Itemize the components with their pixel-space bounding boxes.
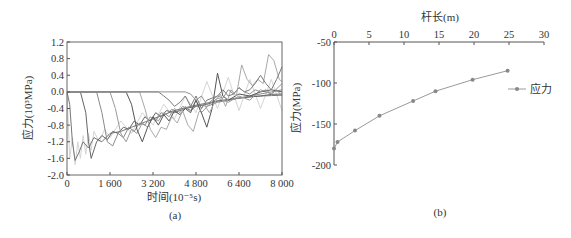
data-point-marker (506, 69, 510, 73)
chart-b-stress-length: 051015202530 -50-100-150-200 杆长(m) 应力(MP… (289, 10, 552, 219)
data-point-marker (378, 114, 382, 118)
y-tick-label: -200 (312, 160, 331, 171)
x-tick-label: 15 (434, 29, 445, 40)
chart-a-x-axis-title: 时间(10⁻⁵s) (147, 191, 202, 204)
data-point-marker (411, 99, 415, 103)
y-tick-label: -2.0 (47, 170, 64, 181)
legend-marker-icon (515, 87, 519, 91)
x-tick-label: 1 600 (98, 178, 122, 189)
chart-a-y-axis-title: 应力(10³MPa) (21, 75, 35, 140)
chart-b-x-axis-title: 杆长(m) (421, 10, 459, 24)
chart-a-stress-time: 1.20.80.40.0-0.4-0.8-1.2-1.6-2.0 01 6003… (21, 37, 294, 223)
y-tick-label: 0.0 (51, 86, 64, 97)
chart-b-legend-label: 应力 (530, 82, 552, 95)
x-tick-label: 25 (504, 29, 515, 40)
data-point-marker (353, 129, 357, 133)
chart-b-x-axis: 051015202530 (331, 29, 549, 45)
chart-b-y-axis-title: 应力(MPa) (289, 83, 303, 133)
y-tick-label: -1.6 (47, 153, 64, 164)
series-line (67, 77, 282, 164)
y-tick-label: -1.2 (47, 136, 64, 147)
y-tick-label: 0.8 (51, 53, 64, 64)
y-tick-label: 0.4 (51, 70, 65, 81)
series-line (67, 73, 282, 142)
x-tick-label: 3 200 (141, 178, 165, 189)
x-tick-label: 0 (331, 29, 336, 40)
x-tick-label: 4 800 (184, 178, 208, 189)
x-tick-label: 8 000 (270, 178, 294, 189)
data-point-marker (332, 147, 336, 151)
x-tick-label: 30 (539, 29, 550, 40)
x-tick-label: 6 400 (227, 178, 251, 189)
chart-b-panel-label: (b) (434, 206, 447, 219)
chart-a-curves (67, 55, 282, 165)
y-tick-label: -0.8 (47, 120, 64, 131)
series-line (334, 71, 508, 149)
x-tick-label: 5 (366, 29, 371, 40)
data-point-marker (434, 89, 438, 93)
data-point-marker (471, 78, 475, 82)
y-tick-label: 1.2 (51, 37, 64, 48)
figure: 1.20.80.40.0-0.4-0.8-1.2-1.6-2.0 01 6003… (0, 0, 571, 238)
chart-a-panel-label: (a) (169, 209, 182, 222)
chart-b-series (332, 69, 510, 151)
y-tick-label: -0.4 (47, 103, 64, 114)
y-tick-label: -50 (317, 37, 331, 48)
chart-b-legend: 应力 (508, 82, 552, 95)
data-point-marker (336, 140, 340, 144)
x-tick-label: 0 (64, 178, 69, 189)
y-tick-label: -150 (312, 119, 331, 130)
y-tick-label: -100 (312, 78, 331, 89)
x-tick-label: 10 (399, 29, 410, 40)
x-tick-label: 20 (469, 29, 480, 40)
